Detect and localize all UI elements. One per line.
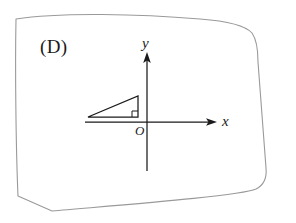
origin-label: O — [135, 124, 144, 137]
x-axis-label: x — [222, 114, 229, 129]
figure-container: (D) y x O — [0, 0, 296, 223]
right-angle-marker-icon — [132, 111, 138, 117]
choice-label: (D) — [40, 37, 67, 56]
right-triangle-shape — [88, 96, 138, 117]
geometry-figure-svg — [0, 0, 296, 223]
y-axis-label: y — [142, 36, 149, 51]
